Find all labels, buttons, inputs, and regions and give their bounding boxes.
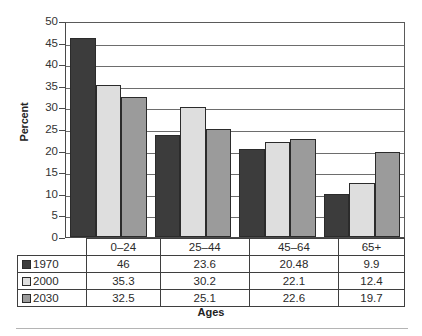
y-tick-mark (59, 65, 65, 66)
bar-1970-45–64[interactable] (239, 149, 265, 237)
table-cell: 22.1 (249, 273, 338, 290)
y-tick-label: 20 (30, 146, 58, 157)
table-header-row: 0–2425–4445–6465+ (18, 239, 405, 256)
table-body: 19704623.620.489.9200035.330.222.112.420… (18, 256, 405, 307)
plot-area (65, 22, 405, 238)
table-cell: 22.6 (249, 290, 338, 307)
y-axis-tick-labels: 50454035302520151050 (30, 22, 58, 238)
bar-chart-figure: Percent 50454035302520151050 0–2425–4445… (0, 0, 422, 336)
legend-label: 1970 (33, 258, 59, 270)
table-header-25–44: 25–44 (160, 239, 249, 256)
bar-2030-0–24[interactable] (121, 97, 147, 237)
bar-1970-65+[interactable] (324, 194, 350, 237)
table-cell: 19.7 (338, 290, 404, 307)
bar-2000-65+[interactable] (349, 183, 375, 237)
bar-2000-0–24[interactable] (96, 85, 122, 237)
legend-label: 2030 (33, 292, 59, 304)
bar-series-container (66, 23, 404, 237)
y-tick-label: 5 (30, 210, 58, 221)
y-axis-title: Percent (18, 87, 30, 157)
y-tick-mark (59, 195, 65, 196)
y-tick-mark (59, 173, 65, 174)
y-tick-label: 40 (30, 59, 58, 70)
y-tick-mark (59, 22, 65, 23)
table-cell: 30.2 (160, 273, 249, 290)
bar-2000-25–44[interactable] (180, 107, 206, 237)
table-row: 19704623.620.489.9 (18, 256, 405, 273)
y-tick-label: 30 (30, 102, 58, 113)
bar-group (151, 23, 236, 237)
y-tick-label: 50 (30, 16, 58, 27)
y-tick-label: 10 (30, 189, 58, 200)
table-row: 203032.525.122.619.7 (18, 290, 405, 307)
legend-entry-2030: 2030 (18, 290, 87, 307)
bar-group (320, 23, 405, 237)
legend-swatch-icon (22, 277, 31, 286)
table-cell: 25.1 (160, 290, 249, 307)
y-tick-mark (59, 152, 65, 153)
y-tick-mark (59, 44, 65, 45)
table-cell: 20.48 (249, 256, 338, 273)
legend-swatch-icon (22, 260, 31, 269)
table-header: 0–2425–4445–6465+ (18, 239, 405, 256)
legend-entry-2000: 2000 (18, 273, 87, 290)
y-tick-mark (59, 216, 65, 217)
y-tick-mark (59, 87, 65, 88)
bottom-divider (16, 328, 408, 329)
x-axis-title: Ages (17, 306, 405, 318)
table-cell: 23.6 (160, 256, 249, 273)
table-header-65+: 65+ (338, 239, 404, 256)
table-cell: 35.3 (87, 273, 161, 290)
y-tick-label: 35 (30, 81, 58, 92)
y-tick-mark (59, 108, 65, 109)
y-tick-label: 45 (30, 38, 58, 49)
bar-2030-45–64[interactable] (290, 139, 316, 237)
y-tick-label: 25 (30, 124, 58, 135)
legend-label: 2000 (33, 275, 59, 287)
table-row: 200035.330.222.112.4 (18, 273, 405, 290)
table-cell: 12.4 (338, 273, 404, 290)
y-tick-label: 15 (30, 167, 58, 178)
table-cell: 9.9 (338, 256, 404, 273)
table-corner-cell (18, 239, 87, 256)
table-cell: 46 (87, 256, 161, 273)
bar-1970-0–24[interactable] (70, 38, 96, 237)
data-table: 0–2425–4445–6465+ 19704623.620.489.92000… (17, 238, 405, 307)
table-header-45–64: 45–64 (249, 239, 338, 256)
table-header-0–24: 0–24 (87, 239, 161, 256)
y-tick-mark (59, 238, 65, 239)
bar-group (235, 23, 320, 237)
bar-2030-25–44[interactable] (206, 129, 232, 237)
bar-1970-25–44[interactable] (155, 135, 181, 237)
legend-entry-1970: 1970 (18, 256, 87, 273)
legend-swatch-icon (22, 294, 31, 303)
bar-group (66, 23, 151, 237)
bar-2030-65+[interactable] (375, 152, 401, 237)
y-tick-mark (59, 130, 65, 131)
bar-2000-45–64[interactable] (265, 142, 291, 237)
table-cell: 32.5 (87, 290, 161, 307)
